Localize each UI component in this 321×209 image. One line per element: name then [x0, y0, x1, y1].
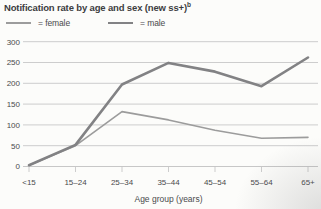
y-tick-label-100: 100 [7, 121, 21, 130]
y-tick-label-0: 0 [16, 162, 21, 171]
female-line [29, 112, 308, 166]
x-tick-label-1: 15–24 [64, 178, 87, 187]
y-tick-label-300: 300 [7, 38, 21, 47]
x-tick-label-0: <15 [22, 178, 36, 187]
x-tick-label-4: 45–54 [204, 178, 227, 187]
y-tick-label-200: 200 [7, 79, 21, 88]
y-tick-label-50: 50 [11, 142, 20, 151]
x-tick-label-3: 35–44 [157, 178, 180, 187]
x-axis-title: Age group (years) [134, 194, 202, 204]
male-line [29, 58, 308, 166]
x-tick-label-2: 25–34 [111, 178, 134, 187]
y-tick-label-250: 250 [7, 58, 21, 67]
x-tick-label-5: 55–64 [250, 178, 273, 187]
y-tick-label-150: 150 [7, 100, 21, 109]
x-tick-label-6: 65+ [301, 178, 315, 187]
line-chart: 050100150200250300<1515–2425–3435–4445–5… [0, 0, 321, 209]
chart-panel: Notification rate by age and sex (new ss… [0, 0, 321, 209]
